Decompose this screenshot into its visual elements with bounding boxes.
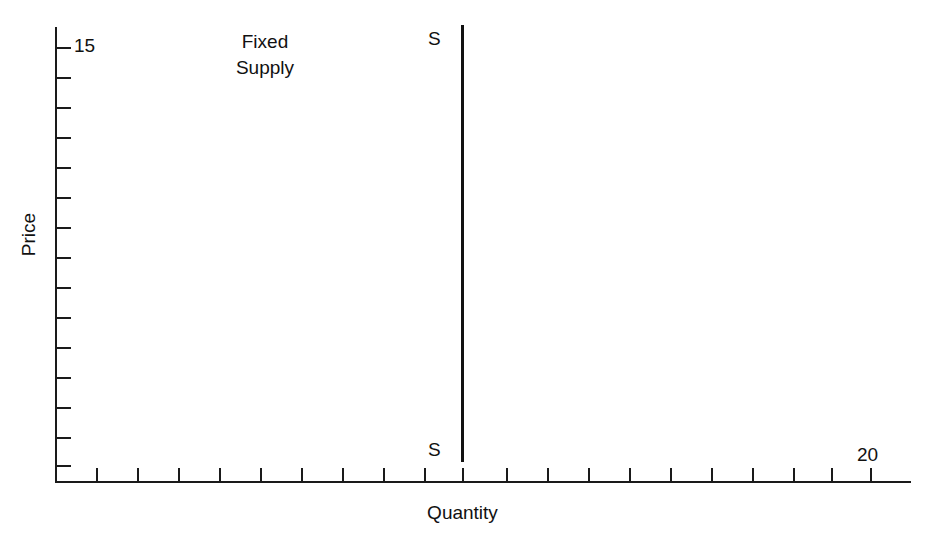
x-axis-title: Quantity xyxy=(0,503,925,522)
y-axis-tick xyxy=(56,347,71,349)
y-axis-tick xyxy=(56,437,71,439)
fixed-supply-annotation-line-2: Supply xyxy=(195,55,335,81)
y-axis-tick xyxy=(56,167,71,169)
y-axis-tick xyxy=(56,317,71,319)
x-axis-tick xyxy=(588,468,590,482)
y-axis-tick xyxy=(56,257,71,259)
y-axis-tick xyxy=(56,137,71,139)
x-axis-tick xyxy=(383,468,385,482)
y-axis-tick xyxy=(56,77,71,79)
x-axis-tick xyxy=(711,468,713,482)
supply-curve-label-bottom: S xyxy=(428,440,441,459)
fixed-supply-annotation-line-1: Fixed xyxy=(195,29,335,55)
y-axis-tick xyxy=(56,227,71,229)
supply-curve-line xyxy=(461,25,464,462)
x-axis-tick xyxy=(178,468,180,482)
y-axis-tick xyxy=(56,197,71,199)
x-axis-tick xyxy=(793,468,795,482)
x-axis-tick xyxy=(342,468,344,482)
x-axis-tick xyxy=(137,468,139,482)
supply-curve-chart: 15 20 S S Fixed Supply Price Quantity xyxy=(0,0,925,541)
y-axis-tick xyxy=(56,377,71,379)
x-axis-tick xyxy=(301,468,303,482)
x-axis-tick xyxy=(547,468,549,482)
x-axis-tick xyxy=(831,468,833,482)
y-axis-tick xyxy=(56,407,71,409)
y-axis-tick xyxy=(56,47,71,49)
x-axis-tick xyxy=(96,468,98,482)
x-axis-tick xyxy=(462,468,464,482)
x-axis-tick-label-20: 20 xyxy=(857,445,878,464)
fixed-supply-annotation: Fixed Supply xyxy=(195,29,335,81)
y-axis-tick xyxy=(56,465,71,467)
x-axis-tick xyxy=(424,468,426,482)
y-axis-line xyxy=(55,27,57,483)
x-axis-tick xyxy=(752,468,754,482)
y-axis-tick xyxy=(56,107,71,109)
y-axis-tick xyxy=(56,287,71,289)
x-axis-tick xyxy=(219,468,221,482)
supply-curve-label-top: S xyxy=(428,29,441,48)
x-axis-tick xyxy=(506,468,508,482)
x-axis-tick xyxy=(670,468,672,482)
x-axis-tick xyxy=(629,468,631,482)
x-axis-line xyxy=(55,481,911,483)
y-axis-title: Price xyxy=(19,200,38,270)
x-axis-tick xyxy=(260,468,262,482)
x-axis-tick xyxy=(870,468,872,482)
y-axis-tick-label-15: 15 xyxy=(74,36,95,55)
